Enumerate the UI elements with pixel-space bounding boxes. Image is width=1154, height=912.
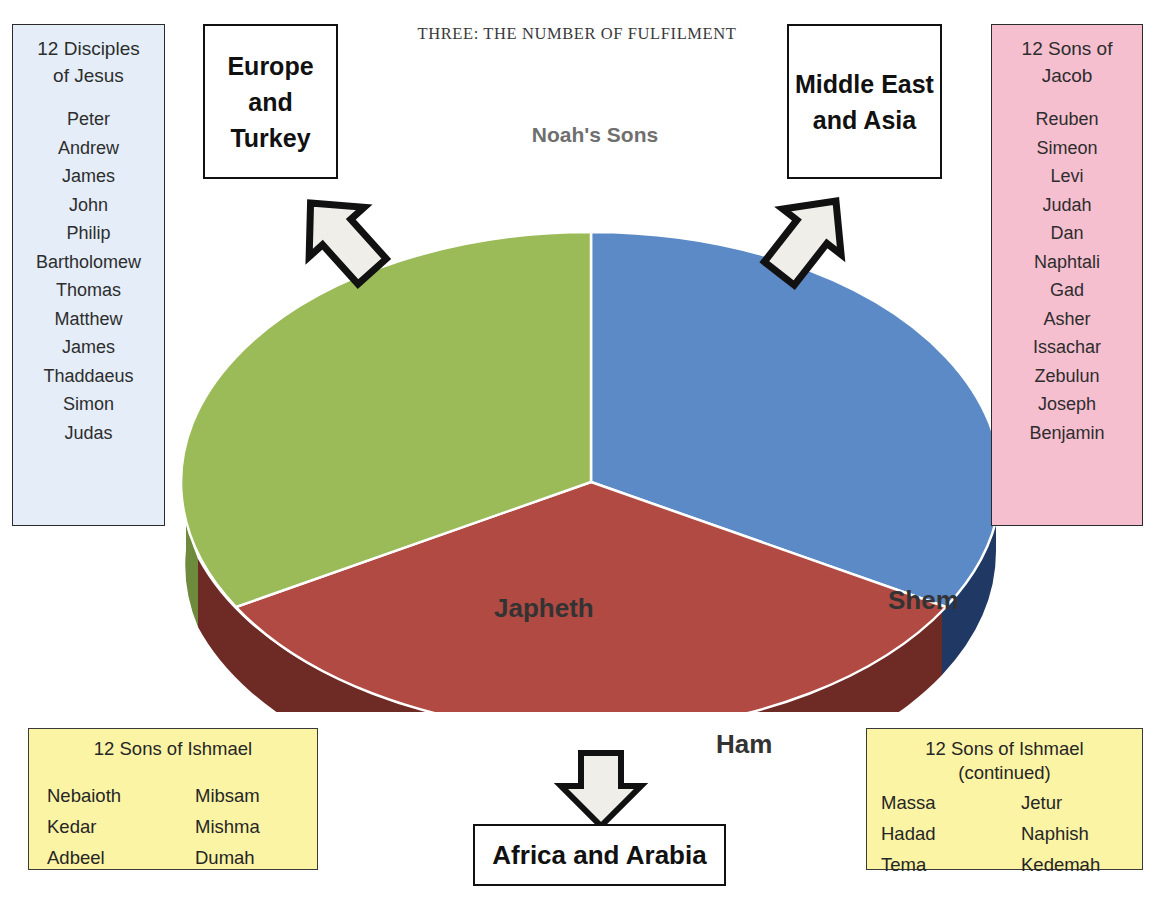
ishmael-right-columns: Massa Hadad Tema Jetur Naphish Kedemah: [867, 787, 1142, 880]
pie-label-ham: Ham: [716, 729, 772, 760]
region-label-europe: Europe and Turkey: [205, 48, 336, 156]
list-item: Joseph: [992, 390, 1142, 419]
note-12-sons-of-ishmael: 12 Sons of Ishmael Nebaioth Kedar Adbeel…: [28, 728, 318, 870]
list-item: Nebaioth: [47, 780, 195, 811]
pie-label-shem: Shem: [888, 585, 959, 616]
list-item: Tema: [881, 849, 1021, 880]
list-item: Benjamin: [992, 419, 1142, 448]
region-label-africa: Africa and Arabia: [492, 837, 706, 873]
list-item: Issachar: [992, 333, 1142, 362]
list-item: Naphish: [1021, 818, 1142, 849]
ishmael-right-title: 12 Sons of Ishmael (continued): [867, 729, 1142, 785]
noahs-sons-pie-chart: Japheth Shem Ham: [176, 232, 1006, 712]
list-item: Adbeel: [47, 842, 195, 873]
list-item: Naphtali: [992, 248, 1142, 277]
jacob-heading-line1: 12 Sons of: [992, 35, 1142, 62]
disciples-heading: 12 Disciples of Jesus: [13, 35, 164, 89]
jacob-list: Reuben Simeon Levi Judah Dan Naphtali Ga…: [992, 105, 1142, 447]
list-item: Thaddaeus: [13, 362, 164, 391]
page-title: THREE: THE NUMBER OF FULFILMENT: [0, 24, 1154, 44]
list-item: Dumah: [195, 842, 317, 873]
list-item: Gad: [992, 276, 1142, 305]
list-item: Kedemah: [1021, 849, 1142, 880]
ishmael-right-title-line2: (continued): [867, 761, 1142, 785]
ishmael-right-title-line1: 12 Sons of Ishmael: [867, 737, 1142, 761]
list-item: Reuben: [992, 105, 1142, 134]
arrow-down-icon: [553, 748, 649, 830]
arrow-up-right-icon: [752, 183, 862, 293]
panel-12-disciples: 12 Disciples of Jesus Peter Andrew James…: [12, 24, 165, 526]
ishmael-left-title: 12 Sons of Ishmael: [29, 729, 317, 761]
region-box-europe[interactable]: Europe and Turkey: [203, 24, 338, 179]
note-12-sons-of-ishmael-continued: 12 Sons of Ishmael (continued) Massa Had…: [866, 728, 1143, 870]
pie-svg: [176, 232, 1006, 712]
arrow-up-left-icon: [287, 183, 397, 293]
list-item: Dan: [992, 219, 1142, 248]
list-item: Thomas: [13, 276, 164, 305]
ishmael-left-col2: Mibsam Mishma Dumah: [195, 780, 317, 873]
list-item: Mishma: [195, 811, 317, 842]
list-item: Levi: [992, 162, 1142, 191]
list-item: Matthew: [13, 305, 164, 334]
disciples-list: Peter Andrew James John Philip Bartholom…: [13, 105, 164, 447]
region-box-africa[interactable]: Africa and Arabia: [473, 824, 726, 886]
list-item: Judas: [13, 419, 164, 448]
list-item: Simeon: [992, 134, 1142, 163]
region-label-middle-east: Middle East and Asia: [789, 66, 940, 138]
panel-12-sons-of-jacob: 12 Sons of Jacob Reuben Simeon Levi Juda…: [991, 24, 1143, 526]
disciples-heading-line1: 12 Disciples: [13, 35, 164, 62]
pie-label-japheth: Japheth: [494, 593, 594, 624]
list-item: Asher: [992, 305, 1142, 334]
list-item: Kedar: [47, 811, 195, 842]
ishmael-right-col2: Jetur Naphish Kedemah: [1021, 787, 1142, 880]
ishmael-left-col1: Nebaioth Kedar Adbeel: [47, 780, 195, 873]
list-item: Bartholomew: [13, 248, 164, 277]
disciples-heading-line2: of Jesus: [13, 62, 164, 89]
jacob-heading-line2: Jacob: [992, 62, 1142, 89]
ishmael-right-col1: Massa Hadad Tema: [881, 787, 1021, 880]
list-item: Andrew: [13, 134, 164, 163]
list-item: John: [13, 191, 164, 220]
list-item: Philip: [13, 219, 164, 248]
region-box-middle-east[interactable]: Middle East and Asia: [787, 24, 942, 179]
list-item: Massa: [881, 787, 1021, 818]
list-item: James: [13, 333, 164, 362]
list-item: Peter: [13, 105, 164, 134]
list-item: Judah: [992, 191, 1142, 220]
list-item: James: [13, 162, 164, 191]
jacob-heading: 12 Sons of Jacob: [992, 35, 1142, 89]
list-item: Jetur: [1021, 787, 1142, 818]
infographic-page: THREE: THE NUMBER OF FULFILMENT Noah's S…: [0, 0, 1154, 912]
list-item: Zebulun: [992, 362, 1142, 391]
list-item: Simon: [13, 390, 164, 419]
list-item: Mibsam: [195, 780, 317, 811]
list-item: Hadad: [881, 818, 1021, 849]
pie-caption: Noah's Sons: [455, 123, 735, 147]
ishmael-left-columns: Nebaioth Kedar Adbeel Mibsam Mishma Duma…: [29, 780, 317, 873]
